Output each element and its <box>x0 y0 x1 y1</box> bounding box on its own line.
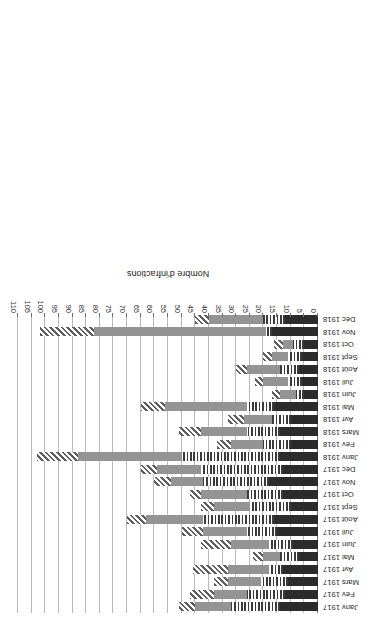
bar-segment[interactable] <box>272 390 280 399</box>
stacked-bar[interactable] <box>182 527 318 536</box>
bar-segment[interactable] <box>195 602 230 611</box>
bar-segment[interactable] <box>299 365 318 374</box>
stacked-bar[interactable] <box>201 502 318 511</box>
stacked-bar[interactable] <box>195 315 318 324</box>
stacked-bar[interactable] <box>272 390 318 399</box>
bar-segment[interactable] <box>280 552 299 561</box>
bar-segment[interactable] <box>296 390 304 399</box>
bar-segment[interactable] <box>201 540 231 549</box>
bar-segment[interactable] <box>272 415 291 424</box>
bar-segment[interactable] <box>288 377 302 386</box>
bar-segment[interactable] <box>285 590 318 599</box>
bar-segment[interactable] <box>203 527 247 536</box>
bar-segment[interactable] <box>269 540 294 549</box>
stacked-bar[interactable] <box>193 565 318 574</box>
stacked-bar[interactable] <box>228 415 318 424</box>
bar-segment[interactable] <box>272 352 288 361</box>
stacked-bar[interactable] <box>154 477 318 486</box>
bar-segment[interactable] <box>255 377 263 386</box>
bar-segment[interactable] <box>283 565 318 574</box>
bar-segment[interactable] <box>236 365 247 374</box>
bar-segment[interactable] <box>263 352 271 361</box>
bar-segment[interactable] <box>37 452 78 461</box>
stacked-bar[interactable] <box>253 552 318 561</box>
bar-segment[interactable] <box>214 590 247 599</box>
bar-segment[interactable] <box>261 577 288 586</box>
bar-segment[interactable] <box>302 352 318 361</box>
stacked-bar[interactable] <box>141 465 318 474</box>
bar-segment[interactable] <box>201 502 215 511</box>
bar-segment[interactable] <box>283 340 294 349</box>
bar-segment[interactable] <box>190 590 215 599</box>
bar-segment[interactable] <box>272 327 318 336</box>
bar-segment[interactable] <box>94 327 266 336</box>
bar-segment[interactable] <box>293 340 304 349</box>
bar-segment[interactable] <box>203 477 268 486</box>
bar-segment[interactable] <box>274 402 318 411</box>
bar-segment[interactable] <box>247 427 280 436</box>
stacked-bar[interactable] <box>40 327 318 336</box>
bar-segment[interactable] <box>127 515 146 524</box>
bar-segment[interactable] <box>299 552 318 561</box>
bar-segment[interactable] <box>179 602 195 611</box>
bar-segment[interactable] <box>141 465 157 474</box>
stacked-bar[interactable] <box>179 427 318 436</box>
bar-segment[interactable] <box>201 427 247 436</box>
bar-segment[interactable] <box>247 490 282 499</box>
stacked-bar[interactable] <box>274 340 318 349</box>
bar-segment[interactable] <box>291 440 318 449</box>
bar-segment[interactable] <box>288 352 302 361</box>
bar-segment[interactable] <box>182 452 280 461</box>
bar-segment[interactable] <box>165 402 247 411</box>
bar-segment[interactable] <box>269 565 283 574</box>
bar-segment[interactable] <box>154 477 170 486</box>
bar-segment[interactable] <box>179 427 201 436</box>
bar-segment[interactable] <box>78 452 182 461</box>
stacked-bar[interactable] <box>190 590 318 599</box>
bar-segment[interactable] <box>269 477 318 486</box>
bar-segment[interactable] <box>304 390 318 399</box>
bar-segment[interactable] <box>201 490 247 499</box>
bar-segment[interactable] <box>291 502 318 511</box>
stacked-bar[interactable] <box>37 452 318 461</box>
bar-segment[interactable] <box>302 377 318 386</box>
bar-segment[interactable] <box>291 415 318 424</box>
bar-segment[interactable] <box>203 515 274 524</box>
bar-segment[interactable] <box>280 427 318 436</box>
stacked-bar[interactable] <box>190 490 318 499</box>
bar-segment[interactable] <box>288 577 318 586</box>
bar-segment[interactable] <box>231 540 269 549</box>
bar-segment[interactable] <box>263 315 285 324</box>
bar-segment[interactable] <box>266 327 271 336</box>
stacked-bar[interactable] <box>236 365 318 374</box>
stacked-bar[interactable] <box>179 602 318 611</box>
bar-segment[interactable] <box>228 415 244 424</box>
bar-segment[interactable] <box>263 552 279 561</box>
stacked-bar[interactable] <box>201 540 318 549</box>
bar-segment[interactable] <box>193 565 228 574</box>
bar-segment[interactable] <box>40 327 95 336</box>
bar-segment[interactable] <box>263 440 290 449</box>
bar-segment[interactable] <box>280 452 318 461</box>
stacked-bar[interactable] <box>217 440 318 449</box>
bar-segment[interactable] <box>146 515 203 524</box>
bar-segment[interactable] <box>231 602 280 611</box>
bar-segment[interactable] <box>209 315 264 324</box>
bar-segment[interactable] <box>195 315 209 324</box>
stacked-bar[interactable] <box>214 577 318 586</box>
bar-segment[interactable] <box>304 340 318 349</box>
bar-segment[interactable] <box>274 515 318 524</box>
bar-segment[interactable] <box>293 540 318 549</box>
bar-segment[interactable] <box>190 490 201 499</box>
stacked-bar[interactable] <box>141 402 318 411</box>
bar-segment[interactable] <box>280 365 299 374</box>
bar-segment[interactable] <box>231 440 264 449</box>
bar-segment[interactable] <box>274 340 282 349</box>
stacked-bar[interactable] <box>255 377 318 386</box>
bar-segment[interactable] <box>228 577 261 586</box>
bar-segment[interactable] <box>283 465 318 474</box>
bar-segment[interactable] <box>280 602 318 611</box>
bar-segment[interactable] <box>214 577 228 586</box>
bar-segment[interactable] <box>277 527 318 536</box>
bar-segment[interactable] <box>247 402 274 411</box>
